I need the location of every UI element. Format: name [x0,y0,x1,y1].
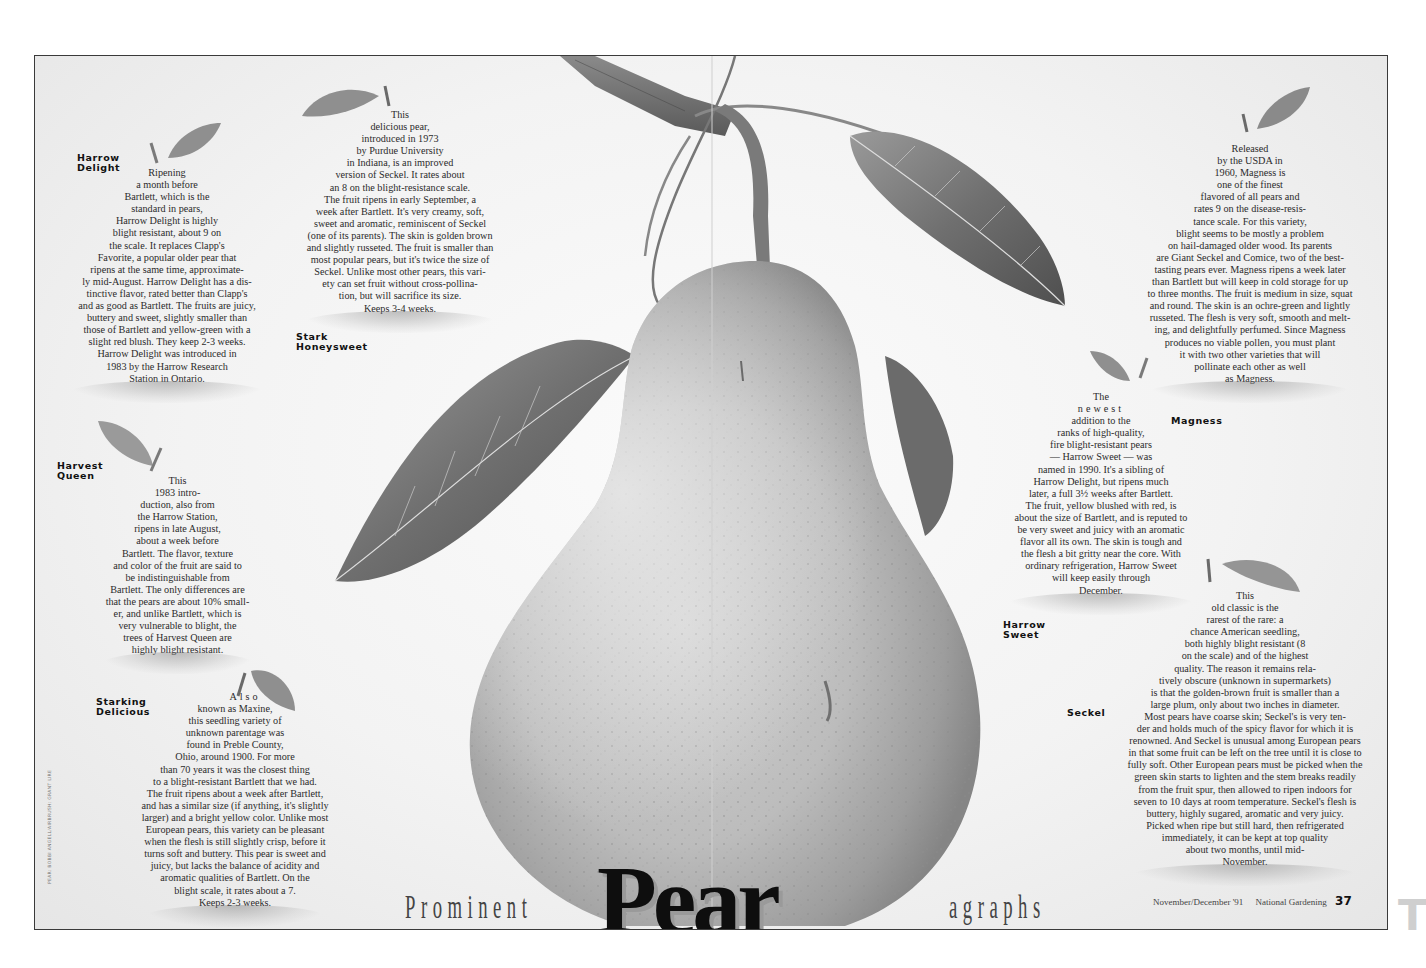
title-suffix: agraphs [949,888,1046,926]
variety-name-stark-honeysweet: Stark Honeysweet [296,332,368,352]
illustration-credit: PEAR: BOBBI ANGELL/AIRBRUSH: GRANT LIRE [47,770,52,884]
blurb-stark-honeysweet: This delicious pear, introduced in 1973 … [281,109,519,315]
title-prefix: Prominent [405,888,532,926]
blurb-harrow-delight: Ripening a month before Bartlett, which … [47,167,287,385]
blurb-shadow [147,905,323,927]
edge-tab-letter: T [1398,895,1426,937]
leaf-icon [143,118,223,168]
blurb-shadow [71,381,263,403]
blurb-starking-delicious: Also known as Maxine, this seedling vari… [125,691,345,909]
variety-name-seckel: Seckel [1067,708,1105,718]
article-title: Prominent Pear agraphs [405,856,1105,930]
magazine-page: Harrow Delight Ripening a month before B… [34,55,1388,930]
blurb-shadow [1133,864,1357,886]
page-number: 37 [1335,894,1352,908]
issue-date: November/December '91 [1153,897,1243,907]
blurb-harvest-queen: This 1983 intro- duction, also from the … [85,475,270,656]
blurb-seckel: This old classic is the rarest of the ra… [1105,590,1385,868]
variety-name-harrow-sweet: Harrow Sweet [1003,620,1046,640]
publication-name: National Gardening [1256,897,1327,907]
leaf-icon [93,416,163,476]
title-main: Pear [597,851,777,930]
blurb-shadow [305,311,495,333]
leaf-icon [1235,84,1315,134]
blurb-magness: Released by the USDA in 1960, Magness is… [1125,143,1375,385]
page-footer: November/December '91 National Gardening… [1153,894,1352,908]
blurb-harrow-sweet: The newest addition to the ranks of high… [985,391,1217,597]
